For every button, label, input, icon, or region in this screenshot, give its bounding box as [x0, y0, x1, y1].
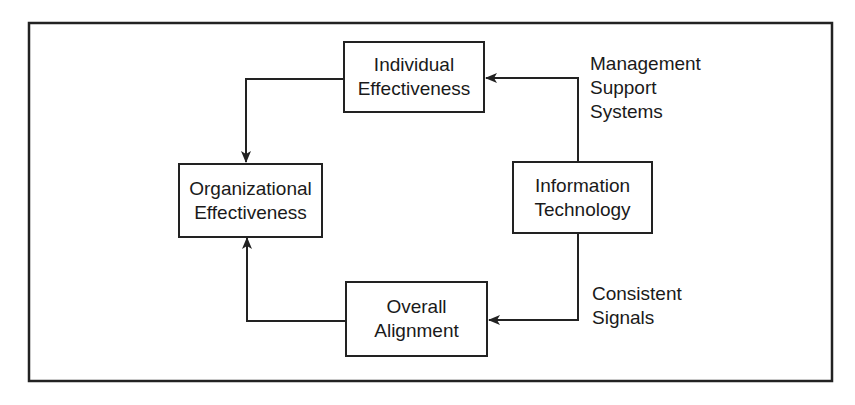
node-overall-alignment: Overall Alignment: [345, 281, 488, 357]
node-information-technology: Information Technology: [512, 161, 653, 234]
node-line: Organizational: [189, 177, 312, 201]
label-line: Support: [590, 76, 701, 100]
arrow-alignment-to-org: [247, 238, 345, 321]
label-line: Consistent: [592, 282, 682, 306]
arrow-individual-to-org: [246, 79, 343, 162]
label-line: Systems: [590, 100, 701, 124]
node-organizational-effectiveness: Organizational Effectiveness: [178, 163, 323, 238]
node-line: Effectiveness: [194, 201, 307, 225]
label-line: Management: [590, 52, 701, 76]
label-line: Signals: [592, 306, 682, 330]
edge-label-consistent-signals: Consistent Signals: [592, 282, 682, 330]
node-line: Alignment: [374, 319, 459, 343]
node-line: Information: [535, 174, 630, 198]
node-individual-effectiveness: Individual Effectiveness: [343, 41, 485, 113]
node-line: Individual: [374, 53, 454, 77]
node-line: Overall: [386, 295, 446, 319]
node-line: Technology: [534, 198, 630, 222]
node-line: Effectiveness: [358, 77, 471, 101]
arrow-it-to-individual: [486, 78, 578, 161]
arrow-it-to-alignment: [489, 233, 578, 320]
edge-label-management-support-systems: Management Support Systems: [590, 52, 701, 124]
